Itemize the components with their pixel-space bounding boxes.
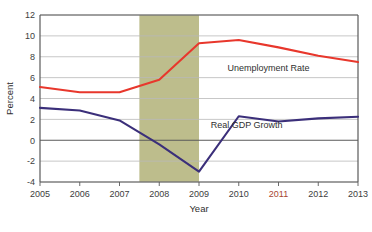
chart-container: 121086420-2-4200520062007200820092010201… bbox=[0, 0, 372, 232]
x-tick-label: 2005 bbox=[30, 189, 50, 199]
x-tick-label: 2006 bbox=[70, 189, 90, 199]
x-tick-label: 2009 bbox=[189, 189, 209, 199]
x-tick-label: 2013 bbox=[348, 189, 368, 199]
y-tick-label: 10 bbox=[25, 31, 35, 41]
y-axis-title: Percent bbox=[4, 82, 15, 115]
x-tick-label: 2010 bbox=[229, 189, 249, 199]
x-axis-title: Year bbox=[189, 203, 208, 214]
y-tick-label: 8 bbox=[30, 52, 35, 62]
x-tick-label: 2012 bbox=[308, 189, 328, 199]
y-tick-label: 6 bbox=[30, 73, 35, 83]
y-tick-label: 12 bbox=[25, 10, 35, 20]
x-tick-label: 2011 bbox=[269, 189, 288, 199]
line-chart: 121086420-2-4200520062007200820092010201… bbox=[0, 0, 372, 232]
series-annotation-unemployment-rate: Unemployment Rate bbox=[228, 63, 310, 73]
y-tick-label: 0 bbox=[30, 136, 35, 146]
y-tick-label: 4 bbox=[30, 94, 35, 104]
y-tick-label: -4 bbox=[27, 177, 35, 187]
series-annotation-real-gdp-growth: Real GDP Growth bbox=[211, 120, 283, 130]
x-tick-label: 2008 bbox=[149, 189, 169, 199]
y-tick-label: -2 bbox=[27, 156, 35, 166]
x-tick-label: 2007 bbox=[109, 189, 129, 199]
y-tick-label: 2 bbox=[30, 115, 35, 125]
